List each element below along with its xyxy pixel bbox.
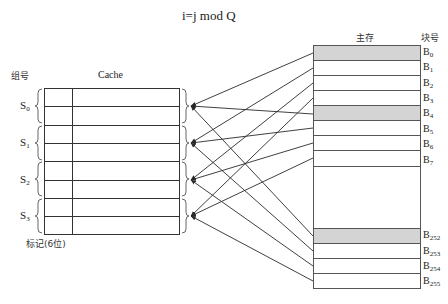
arrow-b252-s0 [191, 106, 313, 236]
right-brace-s1 [182, 126, 189, 160]
block-b4-shaded [314, 106, 421, 121]
right-brace-s2 [182, 162, 189, 196]
arrow-b6-s2 [191, 143, 313, 180]
arrow-b7-s3 [191, 158, 313, 216]
brace-s0 [35, 89, 42, 123]
block-b0-shaded [314, 46, 421, 61]
arrow-b5-s1 [191, 128, 313, 143]
right-group-braces [182, 89, 189, 233]
right-brace-s3 [182, 199, 189, 233]
left-group-braces [35, 89, 42, 233]
arrow-b3-s3 [191, 98, 313, 216]
brace-s2 [35, 162, 42, 196]
arrow-b253-s1 [191, 143, 313, 251]
main-memory-table [314, 46, 421, 289]
arrow-b4-s0 [191, 106, 313, 114]
block-b252-shaded [314, 229, 421, 244]
arrow-b254-s2 [191, 180, 313, 266]
brace-s3 [35, 199, 42, 233]
diagram-canvas [0, 0, 448, 304]
brace-s1 [35, 126, 42, 160]
right-brace-s0 [182, 89, 189, 123]
cache-table [45, 89, 180, 235]
mapping-arrows [191, 53, 313, 281]
arrow-b255-s3 [191, 216, 313, 281]
